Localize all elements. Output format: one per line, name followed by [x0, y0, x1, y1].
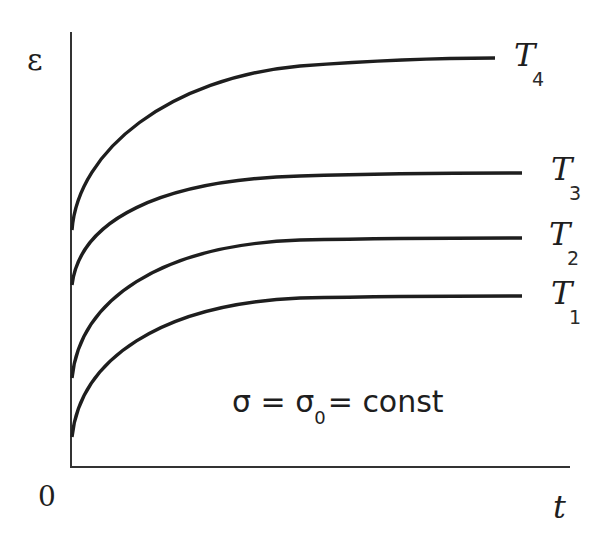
label-t4-sub: 4: [532, 68, 544, 90]
annotation-sub: 0: [314, 407, 325, 428]
annotation-main: σ = σ: [232, 384, 314, 419]
x-axis-label: t: [553, 488, 566, 526]
curve-t3: [72, 173, 522, 285]
label-t2-sub: 2: [567, 247, 579, 269]
stress-annotation: σ = σ0= const: [232, 384, 444, 419]
y-axis-label: ε: [27, 42, 43, 77]
label-t3-sub: 3: [569, 182, 581, 204]
curve-t4: [72, 58, 495, 230]
creep-chart: [0, 0, 605, 545]
annotation-tail: = const: [328, 384, 444, 419]
curve-t2: [72, 238, 522, 378]
label-t2: T 2: [549, 215, 570, 253]
label-t1: T 1: [551, 274, 572, 312]
label-t1-sub: 1: [569, 306, 581, 328]
origin-label: 0: [38, 480, 56, 513]
label-t4: T 4: [514, 36, 535, 74]
label-t3: T 3: [551, 150, 572, 188]
